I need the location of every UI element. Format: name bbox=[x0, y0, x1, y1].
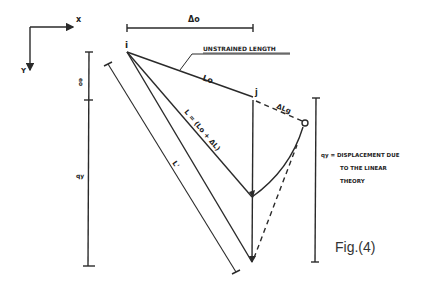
unstrained-length-label: UNSTRAINED LENGTH bbox=[203, 45, 276, 52]
final-line bbox=[127, 52, 252, 262]
unstrained-leader bbox=[180, 54, 290, 70]
qy-desc-line1: qy = DISPLACEMENT DUE bbox=[321, 152, 400, 159]
l-prime-dimension bbox=[104, 62, 240, 274]
lo-label: Lo bbox=[201, 73, 215, 85]
figure-caption: Fig.(4) bbox=[335, 239, 375, 255]
eo-label: eo bbox=[78, 78, 85, 86]
axes-icon bbox=[30, 27, 73, 70]
l-equation-label: L = (Lo + ΔL) bbox=[182, 108, 221, 153]
deformation-diagram: x Y Δo i j UNSTRAINED LENGTH Lo L = (Lo … bbox=[0, 0, 436, 294]
linear-dashed bbox=[254, 145, 297, 258]
point-j-label: j bbox=[254, 88, 258, 97]
node-circle-icon bbox=[302, 120, 308, 126]
y-axis-label: Y bbox=[20, 67, 27, 75]
delta-o-dimension bbox=[127, 24, 253, 32]
x-axis-label: x bbox=[76, 15, 82, 24]
qy-desc-line2: TO THE LINEAR bbox=[340, 165, 388, 171]
point-i-label: i bbox=[125, 40, 128, 50]
right-dimension bbox=[311, 98, 320, 262]
delta-o-label: Δo bbox=[188, 15, 200, 24]
j-vertical-line bbox=[252, 100, 253, 262]
qy-desc-line3: THEORY bbox=[340, 178, 366, 184]
qy-left-label: qy bbox=[76, 172, 84, 180]
displacement-curve bbox=[252, 127, 303, 197]
